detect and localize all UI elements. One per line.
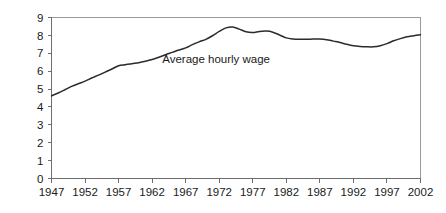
x-tick-label: 1952	[72, 186, 98, 198]
line-chart: 0123456789 19471952195719621967197219771…	[0, 0, 446, 213]
series-label: Average hourly wage	[162, 53, 270, 65]
chart-container: 0123456789 19471952195719621967197219771…	[0, 0, 446, 213]
x-tick-label: 1987	[307, 186, 333, 198]
y-tick-label: 6	[37, 65, 43, 77]
y-tick-label: 0	[37, 173, 43, 185]
y-tick-label: 5	[37, 83, 43, 95]
x-tick-label: 1992	[341, 186, 367, 198]
x-tick-label: 1997	[374, 186, 400, 198]
x-tick-label: 1967	[173, 186, 199, 198]
y-tick-label: 8	[37, 30, 43, 42]
y-tick-label: 9	[37, 12, 43, 24]
x-tick-label: 1982	[274, 186, 300, 198]
y-tick-label: 7	[37, 47, 43, 59]
y-tick-label: 1	[37, 155, 43, 167]
x-tick-label: 1972	[206, 186, 232, 198]
y-tick-label: 4	[37, 101, 44, 113]
x-tick-label: 1957	[106, 186, 132, 198]
chart-background	[0, 0, 446, 213]
y-tick-label: 2	[37, 137, 43, 149]
y-tick-label: 3	[37, 119, 43, 131]
x-tick-label: 1947	[39, 186, 65, 198]
x-tick-label: 1977	[240, 186, 266, 198]
x-tick-label: 2002	[408, 186, 434, 198]
x-tick-label: 1962	[139, 186, 165, 198]
chart-annotations: Average hourly wage	[162, 53, 270, 65]
